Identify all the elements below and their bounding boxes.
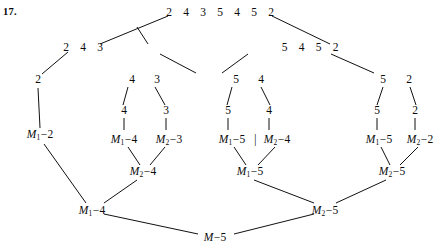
tree-edge (104, 180, 137, 203)
node-subscript: 2 (416, 138, 420, 147)
tree-node-digit: 2 (412, 105, 418, 117)
sequence-digit: 4 (229, 6, 246, 18)
tree-node-sequence: 243 (58, 41, 109, 53)
tree-edge (38, 88, 40, 128)
sequence-digit: 2 (263, 6, 280, 18)
tree-edge (123, 87, 128, 105)
tree-edge (234, 214, 314, 234)
tree-edge (377, 87, 383, 105)
sequence-digit: 4 (178, 6, 195, 18)
tree-node-label: M2−2 (407, 134, 434, 146)
node-subscript: 2 (321, 209, 325, 218)
tree-node-digit: 5 (380, 74, 386, 86)
tree-node-label: M1−5 (237, 166, 264, 178)
node-subscript: 1 (375, 138, 379, 147)
tree-edge (155, 87, 165, 105)
sequence-digit: 4 (293, 41, 310, 53)
tree-node-digit: 2 (406, 74, 412, 86)
node-subscript: 1 (36, 133, 40, 142)
tree-node-digit: 5 (374, 105, 380, 117)
node-subscript: 1 (228, 138, 232, 147)
node-value: 4 (151, 165, 157, 177)
tree-edge (254, 180, 314, 203)
tree-edge (400, 147, 418, 165)
tree-node-label: M2−5 (379, 166, 406, 178)
node-subscript: 1 (120, 138, 124, 147)
sequence-digit: 4 (75, 41, 92, 53)
tree-node-digit: 3 (154, 74, 160, 86)
tree-edge (128, 147, 140, 165)
tree-node-digit: 5 (233, 74, 239, 86)
tree-node-digit: 4 (266, 105, 272, 117)
node-value: 5 (333, 204, 339, 216)
node-subscript: 1 (88, 209, 92, 218)
node-value: 3 (177, 133, 183, 145)
tree-edge (137, 27, 148, 44)
node-subscript: 2 (388, 170, 392, 179)
tree-node-label: M1−4 (111, 134, 138, 146)
tree-edge (331, 54, 374, 73)
node-subscript: 2 (139, 170, 143, 179)
node-value: 5 (387, 133, 393, 145)
sequence-digit: 3 (195, 6, 212, 18)
sequence-digit: 2 (161, 6, 178, 18)
tree-node-digit: 4 (121, 105, 127, 117)
tree-edge (234, 147, 246, 165)
tree-node-digit: 4 (129, 74, 135, 86)
tree-edges (0, 0, 438, 245)
node-value: 5 (258, 165, 264, 177)
tree-edge (261, 87, 270, 105)
tree-node-digit: 4 (258, 74, 264, 86)
tree-edge (44, 144, 86, 203)
label-separator-bar: | (253, 134, 256, 146)
tree-node-label: M−5 (204, 232, 227, 244)
node-value: 4 (132, 133, 138, 145)
sequence-digit: 5 (310, 41, 327, 53)
tree-edge (100, 16, 168, 44)
tree-edge (410, 87, 416, 105)
sequence-digit: 2 (58, 41, 75, 53)
tree-node-digit: 2 (35, 74, 41, 86)
sequence-digit: 2 (327, 41, 344, 53)
node-value: 4 (285, 133, 291, 145)
tree-edge (160, 54, 196, 73)
node-value: 5 (400, 165, 406, 177)
tree-edge (42, 52, 68, 74)
tree-node-label: M2−4 (264, 134, 291, 146)
sequence-digit: 5 (246, 6, 263, 18)
tree-node-sequence: 5452 (276, 41, 344, 53)
node-value: 5 (240, 133, 246, 145)
sequence-digit: 3 (92, 41, 109, 53)
tree-node-digit: 3 (163, 105, 169, 117)
tree-node-sequence: 2435452 (161, 6, 280, 18)
tree-edge (227, 87, 232, 105)
tree-node-label: M1−2 (27, 129, 54, 141)
tree-node-label: M2−3 (156, 134, 183, 146)
merge-sort-tree-figure: 17. 243545224354522435452435452M1−2M1−4M… (0, 0, 438, 245)
node-value: 4 (100, 204, 106, 216)
sequence-digit: 5 (276, 41, 293, 53)
node-value: 2 (428, 133, 434, 145)
tree-edge (272, 16, 330, 44)
tree-edge (336, 180, 386, 203)
node-subscript: 1 (246, 170, 250, 179)
tree-node-digit: 5 (225, 105, 231, 117)
sequence-digit: 5 (212, 6, 229, 18)
tree-edge (258, 147, 275, 165)
tree-node-label: M1−5 (219, 134, 246, 146)
tree-node-label: M1−4 (79, 205, 106, 217)
tree-node-label: M2−4 (130, 166, 157, 178)
node-value: 5 (221, 231, 227, 243)
tree-edge (222, 54, 248, 73)
node-subscript: 2 (165, 138, 169, 147)
node-value: 2 (48, 128, 54, 140)
tree-edge (104, 214, 198, 234)
tree-edge (150, 147, 165, 165)
node-subscript: 2 (273, 138, 277, 147)
tree-edge (381, 147, 390, 165)
tree-node-label: M1−5 (366, 134, 393, 146)
tree-node-label: M2−5 (312, 205, 339, 217)
